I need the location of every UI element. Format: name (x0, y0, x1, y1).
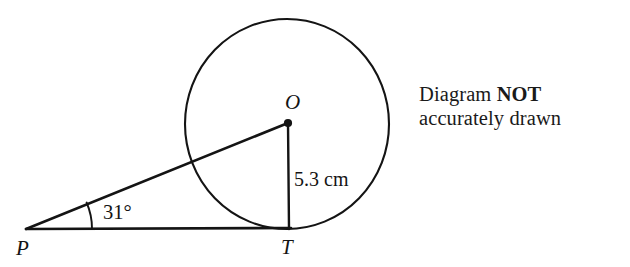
geometry-figure: 31° 5.3 cm P T O (0, 0, 630, 267)
angle-arc (87, 203, 92, 229)
note-line-1-prefix: Diagram (419, 83, 497, 105)
center-point-dot (284, 119, 292, 127)
segment-ot (288, 123, 289, 229)
point-label-o: O (285, 90, 300, 114)
angle-label: 31° (103, 201, 132, 223)
segment-po (26, 123, 288, 229)
diagram-page: 31° 5.3 cm P T O Diagram NOT accurately … (0, 0, 630, 267)
note-line-2: accurately drawn (419, 107, 619, 131)
note-line-1: Diagram NOT (419, 83, 619, 107)
segment-pt (26, 228, 291, 229)
radius-length-label: 5.3 cm (294, 168, 349, 190)
point-label-p: P (15, 236, 29, 260)
point-label-t: T (281, 235, 294, 259)
note-line-1-emphasis: NOT (497, 83, 542, 105)
not-accurately-drawn-note: Diagram NOT accurately drawn (419, 83, 619, 130)
